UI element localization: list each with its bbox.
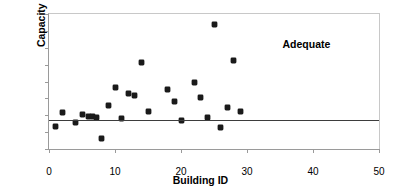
data-point <box>192 80 197 85</box>
x-tick-mark <box>313 149 314 153</box>
y-tick-mark <box>45 48 49 49</box>
x-tick-mark <box>181 149 182 153</box>
data-point <box>126 91 131 96</box>
plot-area: 012345678 01020304050 Adequate <box>48 13 380 150</box>
x-tick-mark <box>247 149 248 153</box>
data-point <box>106 103 111 108</box>
x-tick-mark <box>379 149 380 153</box>
data-point <box>132 93 137 98</box>
y-tick-mark <box>45 98 49 99</box>
x-axis-title: Building ID <box>0 174 401 186</box>
data-point <box>99 136 104 141</box>
data-point <box>53 124 58 129</box>
data-point <box>238 109 243 114</box>
data-point <box>231 58 236 63</box>
data-point <box>60 110 65 115</box>
data-point <box>113 85 118 90</box>
data-point <box>172 99 177 104</box>
y-axis-title: Capacity Index <box>34 0 48 78</box>
x-tick-mark <box>49 149 50 153</box>
annotation-adequate: Adequate <box>282 38 330 50</box>
data-point <box>198 95 203 100</box>
threshold-line <box>49 120 379 121</box>
data-point <box>80 112 85 117</box>
y-tick-mark <box>45 31 49 32</box>
y-tick-mark <box>45 115 49 116</box>
y-tick-mark <box>45 132 49 133</box>
x-tick-mark <box>115 149 116 153</box>
y-tick-mark <box>45 65 49 66</box>
y-tick-mark <box>45 14 49 15</box>
data-point <box>225 105 230 110</box>
data-point <box>139 60 144 65</box>
data-point <box>218 125 223 130</box>
scatter-chart: Capacity Index 012345678 01020304050 Ade… <box>0 0 401 194</box>
data-point <box>212 22 217 27</box>
y-tick-mark <box>45 82 49 83</box>
data-point <box>165 87 170 92</box>
data-point <box>146 109 151 114</box>
